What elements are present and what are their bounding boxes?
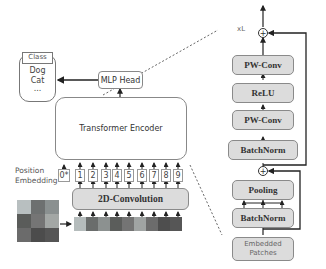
embedded-patches-input: Embedded Patches xyxy=(232,237,294,261)
add-icon-top: + xyxy=(258,28,268,38)
class-item-dog: Dog xyxy=(19,66,56,75)
token-3: 3 xyxy=(101,169,111,182)
mlp-head-block: MLP Head xyxy=(98,71,143,89)
token-5: 5 xyxy=(124,169,134,182)
flattened-patches xyxy=(74,217,186,231)
relu-block: ReLU xyxy=(232,83,294,103)
add-icon-bottom: + xyxy=(258,166,268,176)
token-4: 4 xyxy=(112,169,122,182)
image-patch-grid xyxy=(17,200,57,240)
token-8: 8 xyxy=(161,169,171,182)
position-embedding-label-2: Embedding xyxy=(15,176,58,185)
batchnorm-mid-block: BatchNorm xyxy=(228,140,298,160)
token-6: 6 xyxy=(137,169,147,182)
pw-conv-bottom-block: PW-Conv xyxy=(232,110,294,130)
token-7: 7 xyxy=(149,169,159,182)
embedded-patches-label-2: Patches xyxy=(233,249,293,258)
position-embedding-label: Position xyxy=(15,166,44,175)
pw-conv-top-block: PW-Conv xyxy=(232,55,294,75)
token-1: 1 xyxy=(75,169,85,182)
token-cls: 0* xyxy=(58,169,70,182)
conv2d-block: 2D-Convolution xyxy=(72,188,189,210)
embedded-patches-label-1: Embedded xyxy=(233,240,293,249)
class-label: Class xyxy=(22,52,53,64)
pooling-block: Pooling xyxy=(232,180,294,200)
repeat-count-label: xL xyxy=(237,25,245,33)
batchnorm-bottom-block: BatchNorm xyxy=(232,208,294,228)
transformer-encoder-block: Transformer Encoder xyxy=(55,97,187,160)
token-2: 2 xyxy=(88,169,98,182)
class-item-ellipsis: ... xyxy=(19,84,56,93)
token-9: 9 xyxy=(173,169,183,182)
